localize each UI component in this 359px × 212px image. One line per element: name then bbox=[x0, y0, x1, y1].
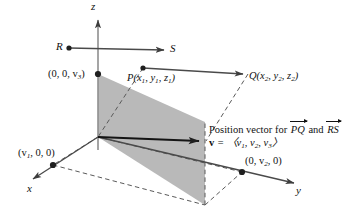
vector-rs-notation: RS bbox=[326, 124, 340, 135]
z-intercept-base: (0, 0, v bbox=[48, 68, 78, 79]
point-p-label: P(x1, y1, z1) bbox=[127, 72, 175, 85]
z-axis-label: z bbox=[91, 1, 95, 13]
point-q-mid-1: , y bbox=[268, 70, 278, 81]
annotation-text-and: and bbox=[306, 124, 326, 135]
vector-rs-letters: RS bbox=[327, 124, 339, 135]
vector-v-comma-1: , v bbox=[245, 137, 255, 148]
vector-diagram-figure: z x y R S P(x1, y1, z1) Q(x2, y2, z2) (0… bbox=[0, 0, 359, 212]
vector-rs-arrow bbox=[66, 45, 164, 50]
position-vector-annotation-line2: v = 〈v1, v2, v3〉 bbox=[209, 137, 282, 150]
z-intercept-close: ) bbox=[81, 68, 85, 79]
y-intercept-label: (0, v2, 0) bbox=[245, 155, 282, 168]
z-intercept-label: (0, 0, v3) bbox=[48, 68, 85, 81]
point-q-label: Q(x2, y2, z2) bbox=[249, 70, 298, 83]
x-intercept-base: (v bbox=[18, 147, 27, 158]
point-q-base: Q(x bbox=[249, 70, 265, 81]
x-intercept-label: (v1, 0, 0) bbox=[18, 147, 55, 160]
annotation-text-prefix: Position vector for bbox=[209, 124, 290, 135]
x-intercept-close: , 0, 0) bbox=[30, 147, 55, 158]
diagram-canvas bbox=[0, 0, 359, 212]
point-q-mid-2: , z bbox=[282, 70, 291, 81]
point-q-close: ) bbox=[295, 70, 299, 81]
point-s-label: S bbox=[170, 43, 176, 55]
point-p-base: P(x bbox=[127, 72, 142, 83]
vector-pq-letters: PQ bbox=[291, 124, 305, 135]
vector-v-comma-2: , v bbox=[258, 137, 268, 148]
y-intercept-base: (0, v bbox=[245, 155, 264, 166]
dot-x-intercept bbox=[50, 162, 56, 168]
point-p-mid-2: , z bbox=[159, 72, 168, 83]
vector-v-equals: = 〈v bbox=[214, 137, 241, 148]
position-vector-annotation-line1: Position vector for PQ and RS bbox=[209, 124, 340, 135]
vector-pq-notation: PQ bbox=[290, 124, 306, 135]
vector-v-close: 〉 bbox=[272, 137, 282, 148]
x-axis-label: x bbox=[27, 183, 32, 195]
dot-z-intercept bbox=[95, 71, 101, 77]
point-p-close: ) bbox=[172, 72, 176, 83]
y-axis-label: y bbox=[296, 185, 301, 197]
point-r-label: R bbox=[56, 41, 63, 53]
y-intercept-close: , 0) bbox=[268, 155, 282, 166]
dot-y-intercept bbox=[239, 169, 245, 175]
point-p-mid-1: , y bbox=[145, 72, 155, 83]
